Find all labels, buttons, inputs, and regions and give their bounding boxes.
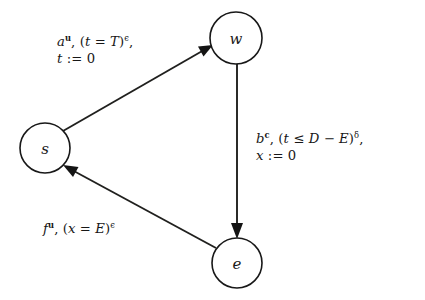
diagram-canvas: s w e au, (t = T)ϵ,t := 0 bc, (t ≤ D − E…: [0, 0, 425, 300]
arrowhead-into-s: [63, 165, 79, 177]
edge-label-line: au, (t = T)ϵ,: [57, 33, 133, 50]
edge-label-e-to-s: fu, (x = E)ϵ: [43, 220, 115, 237]
edge-label-line: t := 0: [57, 50, 133, 67]
node-label-w: w: [230, 32, 243, 47]
arrowhead-into-e: [231, 223, 243, 239]
node-label-s: s: [41, 142, 49, 157]
edge-label-line: x := 0: [256, 147, 364, 164]
edge-label-w-to-e: bc, (t ≤ D − E)δ,x := 0: [256, 130, 364, 165]
edge-label-line: fu, (x = E)ϵ: [43, 220, 115, 237]
node-label-e: e: [233, 257, 242, 272]
edge-label-line: bc, (t ≤ D − E)δ,: [256, 130, 364, 147]
edge-label-s-to-w: au, (t = T)ϵ,t := 0: [57, 33, 133, 68]
